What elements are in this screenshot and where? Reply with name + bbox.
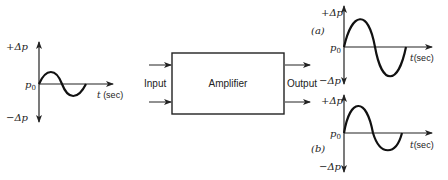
svg-text:+Δp: +Δp [6,41,29,52]
b-plus-label: +Δp [321,95,344,106]
svg-text:+Δp: +Δp [321,95,344,106]
a-origin-sub: 0 [336,47,340,55]
input-minus-label: −Δp [6,112,29,123]
amplifier-block: Amplifier Input Output [144,53,317,114]
svg-text:−Δp: −Δp [319,75,342,86]
b-origin-sub: 0 [336,133,340,141]
amplifier-diagram: +Δp −Δp p0 t (sec) Amplifier Input Outpu… [0,0,448,180]
output-waveform-graph-b: +Δp −Δp p0 (b) t(sec) [311,95,434,172]
a-sine-wave [344,19,406,76]
input-time-unit: (sec) [101,90,124,100]
b-distorted-wave [344,106,402,150]
svg-text:p0: p0 [25,79,36,92]
svg-text:t (sec): t (sec) [97,90,123,100]
a-minus-label: −Δp [319,75,342,86]
output-label: Output [287,78,317,89]
a-time-unit: (sec) [414,53,434,63]
input-label: Input [144,78,166,89]
input-waveform-graph: +Δp −Δp p0 t (sec) [6,41,123,123]
svg-text:t(sec): t(sec) [410,140,434,150]
b-time-unit: (sec) [414,140,434,150]
input-plus-label: +Δp [6,41,29,52]
a-plus-label: +Δp [321,7,344,18]
svg-text:−Δp: −Δp [6,112,29,123]
svg-text:p0: p0 [330,128,341,141]
output-waveform-graph-a: +Δp −Δp p0 (a) t(sec) [311,6,434,86]
svg-text:t(sec): t(sec) [410,53,434,63]
svg-text:+Δp: +Δp [321,7,344,18]
svg-text:−Δp: −Δp [319,161,342,172]
svg-text:p0: p0 [330,42,341,55]
b-tag: (b) [311,143,325,154]
amplifier-label: Amplifier [209,78,249,89]
b-minus-label: −Δp [319,161,342,172]
input-origin-sub: 0 [31,84,35,92]
a-tag: (a) [311,25,325,36]
